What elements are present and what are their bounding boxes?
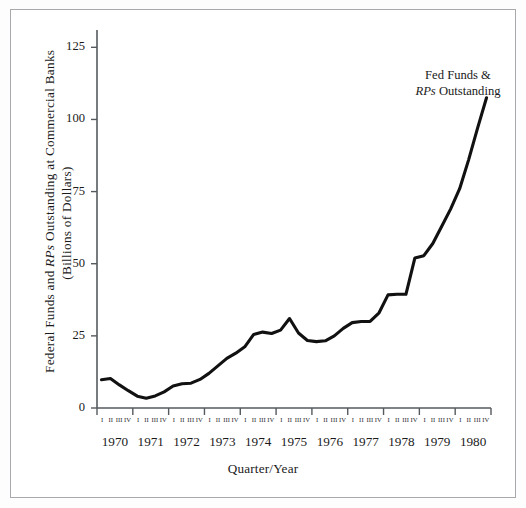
x-axis-quarter-label: I: [420, 416, 428, 423]
figure-container: 1251007550250 19701971197219731974197519…: [0, 0, 526, 508]
x-axis-quarter-label: II: [357, 416, 365, 423]
figure-frame: 1251007550250 19701971197219731974197519…: [10, 9, 516, 498]
x-axis-quarter-label: III: [115, 416, 123, 423]
x-axis-quarter-label: II: [178, 416, 186, 423]
x-axis-quarter-label: IV: [374, 416, 382, 423]
x-axis-quarter-group: IIIIIIIV: [420, 416, 454, 423]
x-axis-quarter-group: IIIIIIIV: [277, 416, 311, 423]
x-axis-quarter-label: IV: [302, 416, 310, 423]
x-axis-quarter-label: I: [349, 416, 357, 423]
x-axis-quarter-label: III: [151, 416, 159, 423]
x-axis-quarter-label: II: [429, 416, 437, 423]
y-tick-marks: [91, 47, 97, 408]
x-axis-quarter-label: I: [313, 416, 321, 423]
x-axis-quarter-label: II: [286, 416, 294, 423]
y-axis-title-line2: (Billions of Dollars): [58, 73, 75, 373]
x-axis-quarter-label: III: [187, 416, 195, 423]
x-axis-quarter-label: III: [437, 416, 445, 423]
x-axis-quarter-label: IV: [267, 416, 275, 423]
x-axis-quarter-label: III: [473, 416, 481, 423]
x-tick-marks: [97, 408, 491, 415]
x-axis-year-label: 1980: [443, 434, 503, 450]
x-axis-quarter-label: IV: [159, 416, 167, 423]
x-axis-quarter-label: III: [401, 416, 409, 423]
x-axis-quarter-label: IV: [231, 416, 239, 423]
x-axis-quarter-label: I: [241, 416, 249, 423]
annotation-rps: RPs: [415, 84, 435, 98]
x-axis-quarter-label: IV: [338, 416, 346, 423]
x-axis-quarter-label: II: [250, 416, 258, 423]
series-annotation: Fed Funds & RPs Outstanding: [397, 68, 519, 99]
x-axis-quarter-label: IV: [482, 416, 490, 423]
x-axis-quarter-label: II: [142, 416, 150, 423]
y-axis-title: Federal Funds and RPs Outstanding at Com…: [41, 73, 75, 373]
annotation-line2: Outstanding: [436, 84, 501, 98]
x-axis-quarter-label: I: [205, 416, 213, 423]
y-axis-title-line1: Federal Funds and RPs Outstanding at Com…: [42, 50, 57, 373]
x-axis-quarter-label: II: [321, 416, 329, 423]
x-axis-quarter-label: III: [222, 416, 230, 423]
x-axis-quarter-label: II: [214, 416, 222, 423]
x-axis-quarter-label: I: [277, 416, 285, 423]
x-axis-quarter-label: II: [106, 416, 114, 423]
x-axis-quarter-label: III: [258, 416, 266, 423]
annotation-line1: Fed Funds &: [425, 68, 491, 82]
x-axis-quarter-label: IV: [446, 416, 454, 423]
x-axis-quarter-label: II: [465, 416, 473, 423]
x-axis-quarter-label: I: [98, 416, 106, 423]
x-axis-quarter-label: IV: [195, 416, 203, 423]
x-axis-quarter-label: II: [393, 416, 401, 423]
x-axis-quarter-group: IIIIIIIV: [313, 416, 347, 423]
x-axis-quarter-label: I: [385, 416, 393, 423]
x-axis-quarter-group: IIIIIIIV: [205, 416, 239, 423]
x-axis-quarter-label: III: [366, 416, 374, 423]
x-axis-quarter-label: I: [170, 416, 178, 423]
x-axis-quarter-group: IIIIIIIV: [241, 416, 275, 423]
x-axis-quarter-label: I: [456, 416, 464, 423]
data-line-fed-funds: [101, 98, 486, 398]
x-axis-quarter-label: IV: [123, 416, 131, 423]
x-axis-quarter-label: I: [134, 416, 142, 423]
x-axis-quarter-label: III: [294, 416, 302, 423]
x-axis-quarter-group: IIIIIIIV: [349, 416, 383, 423]
x-axis-quarter-group: IIIIIIIV: [98, 416, 132, 423]
y-tick-label: 0: [51, 400, 85, 415]
x-axis-quarter-label: IV: [410, 416, 418, 423]
x-axis-title: Quarter/Year: [0, 461, 526, 477]
x-axis-quarter-group: IIIIIIIV: [170, 416, 204, 423]
x-axis-quarter-group: IIIIIIIV: [385, 416, 419, 423]
x-axis-quarter-group: IIIIIIIV: [456, 416, 490, 423]
x-axis-quarter-label: III: [330, 416, 338, 423]
x-axis-quarter-group: IIIIIIIV: [134, 416, 168, 423]
